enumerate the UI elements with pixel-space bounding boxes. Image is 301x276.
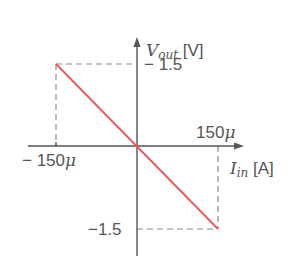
x-axis-label-main: I <box>230 158 237 178</box>
x-tick-left-label: − 150μ <box>22 152 76 169</box>
axes <box>28 44 238 256</box>
x-axis-label-unit: [A] <box>248 159 274 178</box>
x-axis-arrow-icon <box>234 143 244 150</box>
x-tick-right-value: 150 <box>196 123 224 142</box>
y-tick-top-label: − 1.5 <box>144 56 182 73</box>
x-tick-right-label: 150μ <box>196 124 235 141</box>
x-tick-right-micro: μ <box>224 122 235 142</box>
x-axis-label-sub: in <box>237 166 249 180</box>
x-tick-left-value: − 150 <box>22 151 65 170</box>
y-axis-arrow-icon <box>134 37 141 47</box>
y-tick-bottom-label: −1.5 <box>88 221 122 238</box>
x-axis-label: Iin [A] <box>230 160 274 177</box>
x-tick-left-micro: μ <box>65 150 76 170</box>
